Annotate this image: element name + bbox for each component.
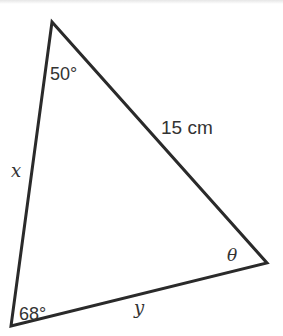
angle-right-label: θ — [227, 245, 237, 265]
triangle-diagram: 50° 68° θ 15 cm x y — [0, 0, 283, 336]
angle-top-label: 50° — [50, 64, 77, 84]
angle-bottom-left-label: 68° — [19, 304, 46, 324]
side-x-label: x — [11, 160, 21, 181]
side-y-label: y — [133, 297, 145, 318]
side-hypotenuse-label: 15 cm — [161, 117, 213, 138]
